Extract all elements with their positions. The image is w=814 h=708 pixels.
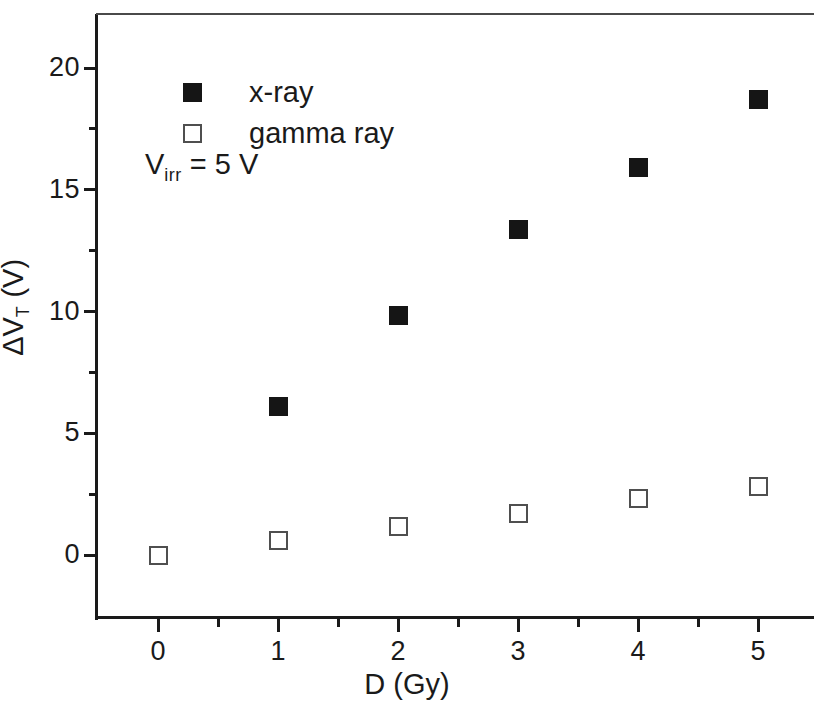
x-tick-minor xyxy=(337,619,340,627)
y-axis-label-unit: (V) xyxy=(0,259,29,306)
y-tick-major xyxy=(84,188,97,191)
data-point-x-ray xyxy=(269,397,288,416)
x-tick-minor xyxy=(457,619,460,627)
x-tick-label: 1 xyxy=(258,636,298,666)
y-tick-minor xyxy=(89,249,97,252)
y-tick-label-text: 20 xyxy=(34,54,80,81)
legend-label-x-ray: x-ray xyxy=(249,77,313,108)
open-square-icon xyxy=(183,124,202,143)
x-axis-label: D (Gy) xyxy=(0,668,814,700)
y-axis-label: ΔVT (V) xyxy=(0,197,39,417)
x-tick-label: 4 xyxy=(618,636,658,666)
y-tick-major xyxy=(84,554,97,557)
x-tick-label: 5 xyxy=(738,636,778,666)
data-point-gamma-ray xyxy=(389,517,408,536)
data-point-gamma-ray xyxy=(629,489,648,508)
x-tick-label: 0 xyxy=(138,636,178,666)
x-tick-major xyxy=(277,619,280,632)
y-tick-minor xyxy=(89,493,97,496)
legend-item-x-ray: x-ray xyxy=(170,72,490,113)
x-tick-major xyxy=(637,619,640,632)
data-point-gamma-ray xyxy=(149,546,168,565)
y-tick-minor xyxy=(89,127,97,130)
y-tick-label: 20 xyxy=(20,54,80,81)
y-tick-major xyxy=(84,432,97,435)
data-point-gamma-ray xyxy=(269,531,288,550)
x-tick-minor xyxy=(577,619,580,627)
x-tick-minor xyxy=(217,619,220,627)
annotation-main: V xyxy=(145,148,164,180)
x-tick-minor xyxy=(697,619,700,627)
y-tick-label: 5 xyxy=(20,419,80,446)
x-tick-major xyxy=(397,619,400,632)
annotation-v-irr: Virr = 5 V xyxy=(145,148,258,191)
y-axis-label-subscript: T xyxy=(13,306,33,317)
x-tick-major xyxy=(517,619,520,632)
filled-square-icon xyxy=(183,83,202,102)
data-point-x-ray xyxy=(389,306,408,325)
data-point-gamma-ray xyxy=(749,477,768,496)
annotation-tail: = 5 V xyxy=(182,148,259,180)
y-tick-label-text: 10 xyxy=(34,298,80,325)
y-tick-minor xyxy=(89,371,97,374)
x-tick-major xyxy=(757,619,760,632)
y-axis-label-main: ΔV xyxy=(0,317,29,356)
data-point-x-ray xyxy=(629,158,648,177)
chart-legend: x-ray gamma ray xyxy=(170,72,490,154)
x-tick-label: 3 xyxy=(498,636,538,666)
scatter-chart-figure: 05101520 012345 x-ray gamma ray Virr = 5… xyxy=(0,0,814,708)
data-point-x-ray xyxy=(749,90,768,109)
y-tick-label-text: 5 xyxy=(34,419,80,446)
data-point-gamma-ray xyxy=(509,504,528,523)
x-tick-label: 2 xyxy=(378,636,418,666)
y-tick-label: 0 xyxy=(20,541,80,568)
annotation-subscript: irr xyxy=(164,165,181,185)
y-tick-label-text: 15 xyxy=(34,176,80,203)
y-tick-major xyxy=(84,67,97,70)
x-tick-major xyxy=(157,619,160,632)
legend-label-gamma-ray: gamma ray xyxy=(249,118,394,149)
y-tick-label-text: 0 xyxy=(34,541,80,568)
y-tick-major xyxy=(84,310,97,313)
data-point-x-ray xyxy=(509,220,528,239)
